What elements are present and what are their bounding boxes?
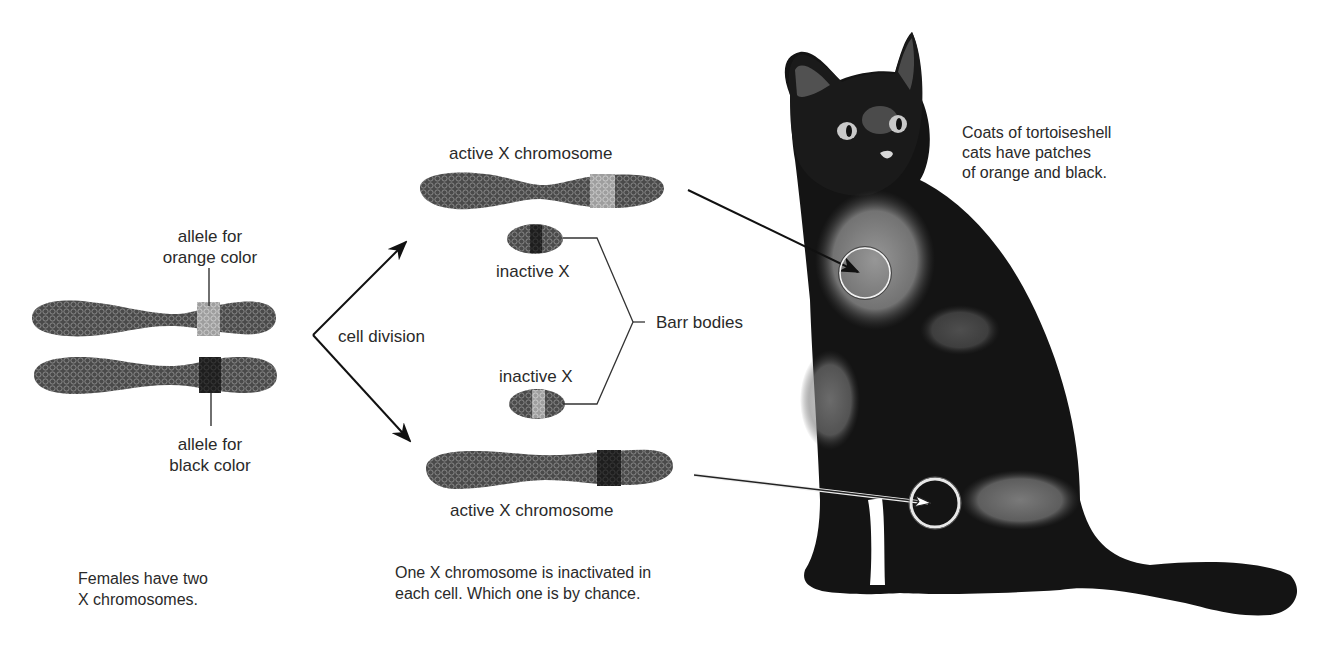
black-allele-label: allele for black color — [155, 434, 265, 476]
orange-allele-label-line1: allele for — [150, 226, 270, 247]
left-caption-line1: Females have two — [78, 568, 208, 589]
right-caption-line2: cats have patches — [962, 143, 1111, 163]
orange-allele-label: allele for orange color — [150, 226, 270, 268]
right-caption-line3: of orange and black. — [962, 163, 1111, 183]
cell-division-label: cell division — [338, 326, 425, 347]
barr-bodies-bracket — [563, 238, 633, 404]
top-inactive-x-label: inactive X — [496, 261, 570, 282]
top-active-x-label: active X chromosome — [449, 143, 612, 164]
middle-caption: One X chromosome is inactivated in each … — [395, 562, 651, 604]
middle-caption-line1: One X chromosome is inactivated in — [395, 562, 651, 583]
top-inactive-x-barr-body — [507, 224, 563, 254]
black-allele-label-line2: black color — [155, 455, 265, 476]
left-caption-line2: X chromosomes. — [78, 589, 208, 610]
left-chromosome-black — [34, 357, 277, 394]
right-caption: Coats of tortoiseshell cats have patches… — [962, 123, 1111, 183]
middle-caption-line2: each cell. Which one is by chance. — [395, 583, 651, 604]
bottom-inactive-x-label: inactive X — [499, 366, 573, 387]
barr-bodies-label: Barr bodies — [656, 312, 743, 333]
left-chromosome-orange — [32, 301, 276, 337]
bottom-active-x-label: active X chromosome — [450, 500, 613, 521]
right-caption-line1: Coats of tortoiseshell — [962, 123, 1111, 143]
bottom-active-x-chromosome — [426, 450, 673, 489]
top-active-x-chromosome — [420, 173, 664, 210]
left-caption: Females have two X chromosomes. — [78, 568, 208, 610]
black-allele-label-line1: allele for — [155, 434, 265, 455]
orange-allele-label-line2: orange color — [150, 247, 270, 268]
bottom-inactive-x-barr-body — [509, 389, 565, 419]
tortoiseshell-cat-photo — [785, 32, 1297, 615]
